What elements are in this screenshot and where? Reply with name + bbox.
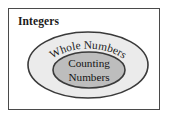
counting-numbers-label-line-1: Counting: [68, 56, 110, 70]
counting-numbers-label-line-2: Numbers: [68, 70, 109, 84]
counting-numbers-set-label: Counting Numbers: [53, 52, 125, 88]
venn-diagram-figure: Integers Whole Numbers Counting Numbers: [0, 0, 171, 118]
